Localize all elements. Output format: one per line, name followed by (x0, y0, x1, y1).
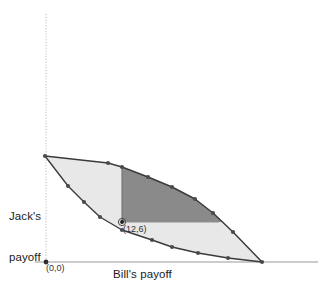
y-axis-label: Jack's payoff (9, 183, 41, 291)
improvement-set-region (122, 0, 325, 222)
bargaining-payoff-diagram: Jack's payoff Bill's payoff (0,0) (12,6) (0, 0, 325, 293)
y-axis-label-line2: payoff (9, 251, 41, 265)
payoff-plot-svg (0, 0, 325, 293)
x-axis-label: Bill's payoff (113, 268, 172, 282)
origin-coordinate-label: (0,0) (46, 263, 65, 273)
y-axis-label-line1: Jack's (9, 210, 41, 224)
marked-point-coordinate-label: (12,6) (123, 224, 147, 234)
